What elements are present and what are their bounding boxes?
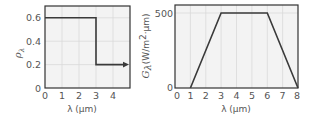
x-tick: 6	[264, 90, 270, 101]
x-tick: 8	[294, 90, 300, 101]
x-axis-label-left: λ (μm)	[67, 104, 97, 114]
y-tick: 500	[155, 8, 173, 19]
x-tick: 4	[233, 90, 239, 101]
y-tick: 0.2	[26, 59, 41, 70]
y-tick: 0	[35, 83, 41, 94]
x-tick: 1	[59, 90, 65, 101]
y-axis-label-left: ρλ	[12, 48, 26, 59]
x-tick: 7	[280, 90, 286, 101]
chart-reflectivity: 0 0.2 0.4 0.6 0 1 2 3 4 λ (μm) ρλ	[12, 6, 130, 114]
x-tick-labels-left: 0 1 2 3 4	[42, 90, 116, 101]
x-tick: 0	[42, 90, 48, 101]
y-tick: 0	[167, 82, 173, 93]
x-tick: 1	[187, 90, 193, 101]
x-tick: 0	[174, 90, 180, 101]
y-tick: 0.6	[26, 12, 41, 23]
x-tick: 2	[76, 90, 82, 101]
y-tick: 0.4	[26, 36, 41, 47]
y-axis-label-right: Gλ(W/m2·μm)	[138, 13, 153, 78]
x-tick: 4	[110, 90, 116, 101]
x-tick: 3	[218, 90, 224, 101]
x-tick-labels-right: 0 1 2 3 4 5 6 7 8	[174, 90, 300, 101]
chart-irradiation: 0 500 0 1 2 3 4 5 6 7 8 λ (μm) Gλ(W/m2·μ…	[138, 5, 300, 114]
x-axis-label-right: λ (μm)	[221, 104, 251, 114]
y-tick-labels-left: 0 0.2 0.4 0.6	[26, 12, 41, 93]
y-tick-labels-right: 0 500	[155, 8, 173, 94]
figure: 0 0.2 0.4 0.6 0 1 2 3 4 λ (μm) ρλ	[0, 0, 310, 121]
x-tick: 2	[203, 90, 209, 101]
x-tick: 5	[249, 90, 255, 101]
x-tick: 3	[93, 90, 99, 101]
